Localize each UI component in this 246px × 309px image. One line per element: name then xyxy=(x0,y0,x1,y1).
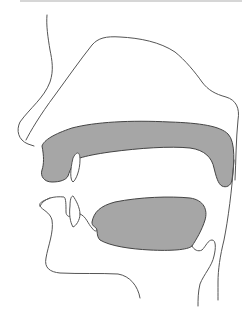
lower-teeth xyxy=(70,196,80,227)
face-profile xyxy=(18,15,52,146)
hard-palate xyxy=(41,121,233,187)
tongue xyxy=(92,197,206,250)
vocal-tract-diagram xyxy=(0,0,246,309)
epiglottis xyxy=(192,240,215,306)
lower-lip xyxy=(40,197,72,217)
